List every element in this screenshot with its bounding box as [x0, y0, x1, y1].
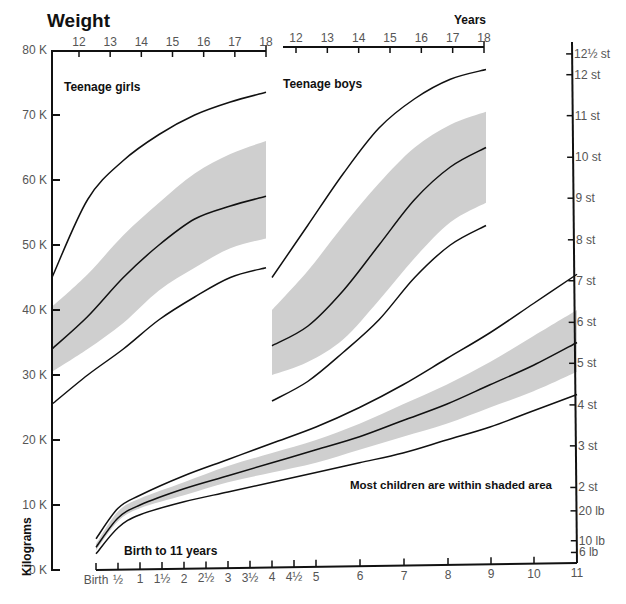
right-tick-label: 10 st	[575, 150, 602, 164]
right-tick-label: 12 st	[574, 68, 601, 82]
boys-annotation: Teenage boys	[283, 77, 362, 91]
year-tick-label: 18	[477, 31, 491, 45]
age-tick-label: 2	[181, 572, 188, 586]
age-tick-label: 5	[313, 570, 320, 584]
age-tick-label: 6	[357, 569, 364, 583]
year-tick-label: 13	[321, 31, 335, 45]
age-tick-label: 1	[137, 572, 144, 586]
age-tick-label: 2½	[198, 571, 215, 585]
right-tick-label: 11 st	[575, 109, 601, 123]
year-tick-label: 14	[135, 35, 149, 49]
year-tick-label: 17	[228, 35, 242, 49]
chart-title: Weight	[47, 10, 111, 31]
age-tick-label: 1½	[154, 572, 171, 586]
left-tick-label: 50 K	[22, 238, 47, 252]
right-tick-label: 6 st	[577, 315, 597, 329]
shaded-band-0	[52, 141, 266, 372]
year-tick-label: 16	[415, 31, 429, 45]
age-tick-label: 3½	[242, 571, 259, 585]
left-tick-label: 30 K	[22, 368, 47, 382]
age-tick-label: Birth	[84, 573, 109, 587]
shaded-area-note: Most children are within shaded area	[350, 479, 553, 491]
left-tick-label: 40 K	[22, 303, 47, 317]
shaded-band-2	[96, 310, 577, 551]
left-tick-label: 70 K	[22, 108, 47, 122]
age-tick-label: 4½	[286, 570, 303, 584]
weight-growth-chart: 80 K70 K60 K50 K40 K30 K20 K10 K0 K 12½ …	[0, 0, 626, 604]
bottom-axis	[96, 563, 577, 570]
age-tick-label: 11	[571, 566, 584, 580]
bottom-axis-ticks: Birth½11½22½33½44½567891011	[84, 557, 584, 587]
age-tick-label: 3	[225, 571, 232, 585]
left-tick-label: 80 K	[22, 43, 47, 57]
children-annotation: Birth to 11 years	[124, 544, 218, 558]
y-axis-label: Kilograms	[20, 517, 34, 576]
right-tick-label: 12½ st	[574, 47, 611, 61]
left-tick-label: 20 K	[22, 433, 47, 447]
left-tick-label: 60 K	[22, 173, 47, 187]
year-tick-label: 13	[103, 35, 117, 49]
girls-annotation: Teenage girls	[64, 80, 141, 94]
year-tick-label: 12	[289, 31, 303, 45]
right-tick-label: 3 st	[578, 439, 598, 453]
year-tick-label: 14	[352, 31, 366, 45]
year-tick-label: 15	[166, 35, 180, 49]
right-tick-label: 8 st	[576, 233, 596, 247]
age-tick-label: 10	[527, 567, 541, 581]
year-tick-label: 16	[197, 35, 211, 49]
right-tick-label: 5 st	[577, 356, 597, 370]
right-tick-label: 7 st	[576, 274, 596, 288]
year-tick-label: 18	[259, 35, 273, 49]
age-tick-label: ½	[113, 573, 123, 587]
age-tick-label: 4	[269, 570, 276, 584]
years-label: Years	[454, 13, 486, 27]
age-tick-label: 8	[445, 568, 452, 582]
boys-axis-ticks: 12131415161718	[289, 31, 491, 53]
age-tick-label: 9	[488, 567, 495, 581]
right-tick-label: 4 st	[577, 398, 597, 412]
age-tick-label: 7	[401, 569, 408, 583]
left-axis-ticks: 80 K70 K60 K50 K40 K30 K20 K10 K0 K	[22, 43, 60, 577]
year-tick-label: 17	[446, 31, 460, 45]
year-tick-label: 12	[72, 35, 86, 49]
right-tick-label: 6 lb	[579, 545, 599, 559]
right-tick-label: 2 st	[578, 480, 598, 494]
left-tick-label: 10 K	[22, 498, 47, 512]
right-tick-label: 20 lb	[578, 504, 604, 518]
year-tick-label: 15	[383, 31, 397, 45]
right-tick-label: 9 st	[575, 191, 595, 205]
girls-axis-ticks: 12131415161718	[72, 35, 273, 57]
